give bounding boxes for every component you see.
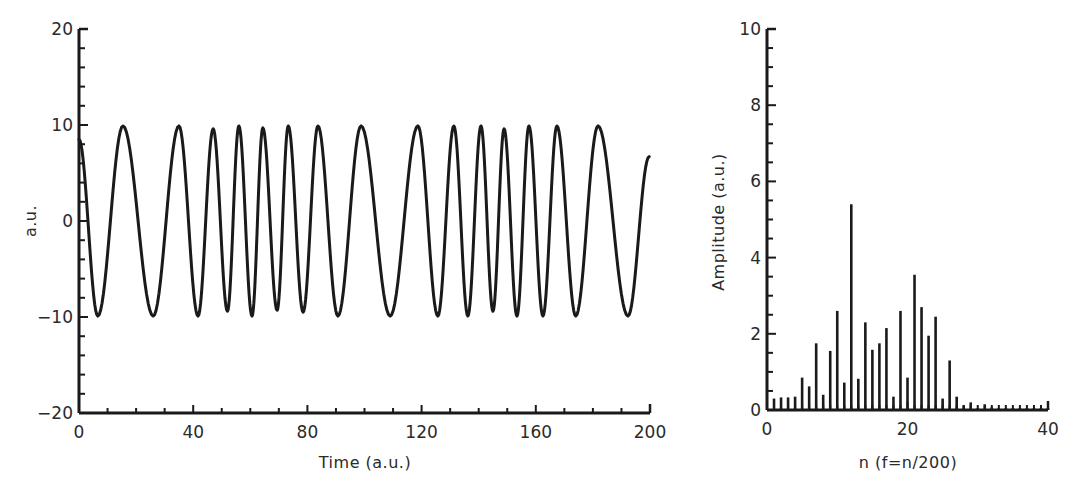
y-tick-label: −20 [37, 403, 73, 423]
x-tick-label: 120 [405, 422, 437, 442]
x-tick-label: 80 [297, 422, 319, 442]
time-series-curve [79, 126, 649, 316]
x-tick-label: 20 [897, 419, 919, 439]
x-tick-label: 160 [520, 422, 552, 442]
y-tick-label: 10 [51, 115, 73, 135]
spectrum-plot: 024681002040 Amplitude (a.u.) n (f=n/200… [709, 19, 1059, 472]
y-tick-label: 6 [750, 171, 761, 191]
spectrum-x-axis-label: n (f=n/200) [859, 453, 957, 472]
x-tick-label: 40 [182, 422, 204, 442]
figure-canvas: −20−100102004080120160200 a.u. Time (a.u… [0, 0, 1070, 486]
time-series-axes: −20−100102004080120160200 [37, 19, 666, 442]
y-tick-label: −10 [37, 307, 73, 327]
spectrum-bars [774, 204, 1048, 410]
x-tick-label: 0 [74, 422, 85, 442]
y-tick-label: 8 [750, 95, 761, 115]
x-tick-label: 40 [1037, 419, 1059, 439]
time-series-y-axis-label: a.u. [21, 205, 40, 237]
y-tick-label: 10 [739, 19, 761, 39]
spectrum-y-axis-label: Amplitude (a.u.) [709, 153, 728, 291]
x-tick-label: 200 [634, 422, 666, 442]
x-tick-label: 0 [762, 419, 773, 439]
time-series-x-axis-label: Time (a.u.) [318, 453, 411, 472]
y-tick-label: 2 [750, 324, 761, 344]
y-tick-label: 20 [51, 19, 73, 39]
y-tick-label: 0 [750, 400, 761, 420]
y-tick-label: 4 [750, 248, 761, 268]
y-tick-label: 0 [62, 211, 73, 231]
spectrum-axes: 024681002040 [739, 19, 1058, 439]
time-series-plot: −20−100102004080120160200 a.u. Time (a.u… [21, 19, 666, 472]
